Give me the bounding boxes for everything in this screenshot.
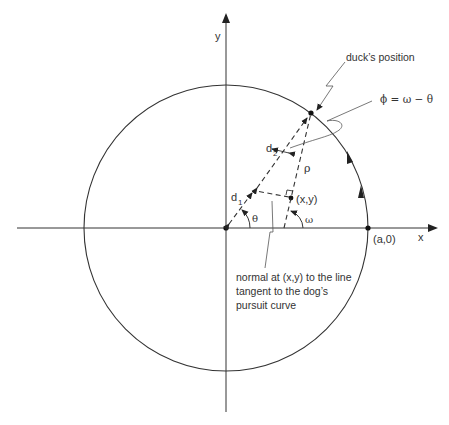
- duck-position-label: duck’s position: [346, 51, 415, 63]
- d1-label: d: [231, 191, 237, 203]
- x-axis-label: x: [418, 231, 424, 243]
- normal-annotation-line1: normal at (x,y) to the line: [236, 271, 352, 283]
- perpendicular-segment: [256, 191, 289, 197]
- d1-subscript: 1: [238, 198, 243, 207]
- normal-leader: [265, 201, 273, 268]
- theta-label: θ: [252, 213, 258, 224]
- a0-label: (a,0): [373, 233, 396, 245]
- phi-equation: ϕ = ω − θ: [380, 93, 433, 105]
- pursuit-curve-diagram: y x (a,0) (x,y) d 1 d 2 ρ θ ω ϕ = ω − θ …: [0, 0, 449, 425]
- d2-label: d: [266, 142, 272, 154]
- duck-leader: [317, 62, 345, 110]
- origin-point: [223, 225, 228, 230]
- circle-direction-arrow-icon: [347, 151, 353, 164]
- theta-arc: [242, 210, 250, 228]
- d2-segment: [257, 118, 307, 188]
- omega-arc: [291, 211, 303, 228]
- y-axis-label: y: [215, 30, 221, 42]
- xy-label: (x,y): [296, 193, 317, 205]
- omega-label: ω: [305, 214, 313, 225]
- rho-label: ρ: [304, 162, 310, 175]
- duck-point: [308, 110, 313, 115]
- d2-subscript: 2: [273, 149, 278, 158]
- normal-annotation-line2: tangent to the dog’s: [236, 285, 328, 297]
- normal-annotation-line3: pursuit curve: [236, 299, 296, 311]
- a0-point: [365, 225, 370, 230]
